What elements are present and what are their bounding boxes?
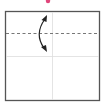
marker-dot	[46, 0, 50, 3]
origami-diagram	[0, 0, 105, 105]
